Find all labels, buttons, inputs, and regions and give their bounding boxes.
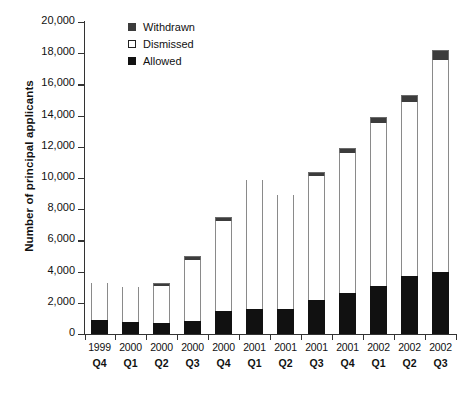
bar-stack[interactable] [432, 50, 449, 334]
bar-stack[interactable] [339, 148, 356, 334]
x-axis-separator [270, 334, 271, 340]
bar-stack[interactable] [91, 283, 108, 334]
bar-segment-dismissed[interactable] [215, 221, 232, 311]
y-axis-tick-label: 6,000 [47, 232, 75, 244]
bar-segment-dismissed[interactable] [308, 176, 325, 299]
x-axis-label: 2000Q2 [146, 341, 177, 369]
bar-segment-dismissed[interactable] [246, 180, 263, 309]
bar-segment-dismissed[interactable] [91, 283, 108, 320]
x-axis-label-quarter: Q3 [177, 357, 208, 370]
bar-segment-withdrawn[interactable] [401, 95, 418, 103]
x-axis-label-year: 2000 [177, 341, 208, 354]
x-axis-label-year: 2000 [146, 341, 177, 354]
x-axis-label: 2001Q4 [332, 341, 363, 369]
y-axis-tick-label: 10,000 [41, 170, 75, 182]
legend-swatch-withdrawn-icon [128, 23, 136, 31]
bar-segment-allowed[interactable] [432, 272, 449, 334]
x-axis-label: 2002Q1 [363, 341, 394, 369]
x-axis-label: 2002Q2 [394, 341, 425, 369]
x-axis-label-year: 2000 [115, 341, 146, 354]
bar-segment-dismissed[interactable] [432, 60, 449, 272]
y-axis-tick-mark [78, 303, 84, 304]
y-axis-tick-mark [78, 84, 84, 85]
x-axis-label-quarter: Q2 [146, 357, 177, 370]
x-axis-label-quarter: Q1 [115, 357, 146, 370]
y-axis-tick-mark [78, 22, 84, 23]
x-axis-label-year: 2001 [332, 341, 363, 354]
bar-segment-allowed[interactable] [308, 300, 325, 334]
bar-segment-allowed[interactable] [153, 323, 170, 334]
bar-segment-dismissed[interactable] [339, 153, 356, 293]
bar-segment-allowed[interactable] [370, 286, 387, 334]
y-axis-tick-label: 4,000 [47, 264, 75, 276]
x-axis-label-quarter: Q4 [332, 357, 363, 370]
y-axis-tick-label: 14,000 [41, 108, 75, 120]
x-axis-label: 2001Q2 [270, 341, 301, 369]
y-axis-tick-label: 0 [69, 326, 75, 338]
y-axis-tick-label: 2,000 [47, 295, 75, 307]
bar-segment-allowed[interactable] [184, 321, 201, 334]
legend-item-dismissed[interactable]: Dismissed [128, 36, 195, 52]
x-axis-separator [146, 334, 147, 340]
y-axis-tick-mark [78, 272, 84, 273]
bar-segment-dismissed[interactable] [122, 287, 139, 322]
bar-segment-dismissed[interactable] [184, 260, 201, 321]
y-axis-tick-mark [78, 53, 84, 54]
bar-segment-dismissed[interactable] [153, 286, 170, 323]
bar-stack[interactable] [308, 172, 325, 334]
x-axis-label: 2002Q3 [425, 341, 456, 369]
bar-stack[interactable] [184, 256, 201, 334]
x-axis-label-year: 2001 [270, 341, 301, 354]
bar-segment-dismissed[interactable] [277, 195, 294, 309]
x-axis-separator [332, 334, 333, 340]
legend-item-allowed[interactable]: Allowed [128, 53, 195, 69]
y-axis-title: Number of principal applicants [23, 36, 35, 296]
x-axis-separator [115, 334, 116, 340]
x-axis-label: 2000Q3 [177, 341, 208, 369]
x-axis-label-year: 2002 [363, 341, 394, 354]
bar-segment-allowed[interactable] [339, 293, 356, 334]
bar-segment-dismissed[interactable] [401, 102, 418, 276]
x-axis-label-quarter: Q1 [363, 357, 394, 370]
bar-segment-withdrawn[interactable] [432, 50, 449, 60]
y-axis-tick-label: 20,000 [41, 14, 75, 26]
x-axis-label-quarter: Q3 [301, 357, 332, 370]
bar-stack[interactable] [401, 95, 418, 334]
x-axis-label-year: 2000 [208, 341, 239, 354]
y-axis-tick-mark [78, 209, 84, 210]
bar-stack[interactable] [277, 195, 294, 334]
bar-segment-allowed[interactable] [215, 311, 232, 334]
bar-segment-allowed[interactable] [401, 276, 418, 334]
bar-segment-allowed[interactable] [122, 322, 139, 334]
x-axis-separator [85, 334, 86, 340]
y-axis-tick-mark [78, 334, 84, 335]
legend-swatch-dismissed-icon [128, 40, 136, 48]
x-axis-label: 2001Q1 [239, 341, 270, 369]
bar-segment-allowed[interactable] [91, 320, 108, 334]
x-axis-separator [363, 334, 364, 340]
bar-stack[interactable] [153, 283, 170, 334]
y-axis-tick-label: 8,000 [47, 201, 75, 213]
x-axis-label-quarter: Q1 [239, 357, 270, 370]
x-axis-label: 2001Q3 [301, 341, 332, 369]
y-axis-tick-label: 16,000 [41, 76, 75, 88]
bar-stack[interactable] [215, 217, 232, 334]
x-axis-label-year: 2001 [239, 341, 270, 354]
bar-segment-dismissed[interactable] [370, 123, 387, 286]
x-axis-separator [177, 334, 178, 340]
bar-stack[interactable] [370, 117, 387, 334]
bar-stack[interactable] [122, 287, 139, 334]
legend-swatch-allowed-icon [128, 57, 136, 65]
bar-segment-allowed[interactable] [246, 309, 263, 334]
bar-segment-allowed[interactable] [277, 309, 294, 334]
legend-item-withdrawn[interactable]: Withdrawn [128, 19, 195, 35]
legend-label: Dismissed [143, 38, 194, 50]
legend-label: Allowed [143, 55, 182, 67]
x-axis-label-quarter: Q4 [208, 357, 239, 370]
x-axis-separator [208, 334, 209, 340]
y-axis-tick-label: 12,000 [41, 139, 75, 151]
x-axis-label-quarter: Q2 [394, 357, 425, 370]
bar-stack[interactable] [246, 180, 263, 334]
stacked-bar-chart: Number of principal applicants 20,00018,… [0, 0, 461, 404]
y-axis-tick-mark [78, 147, 84, 148]
